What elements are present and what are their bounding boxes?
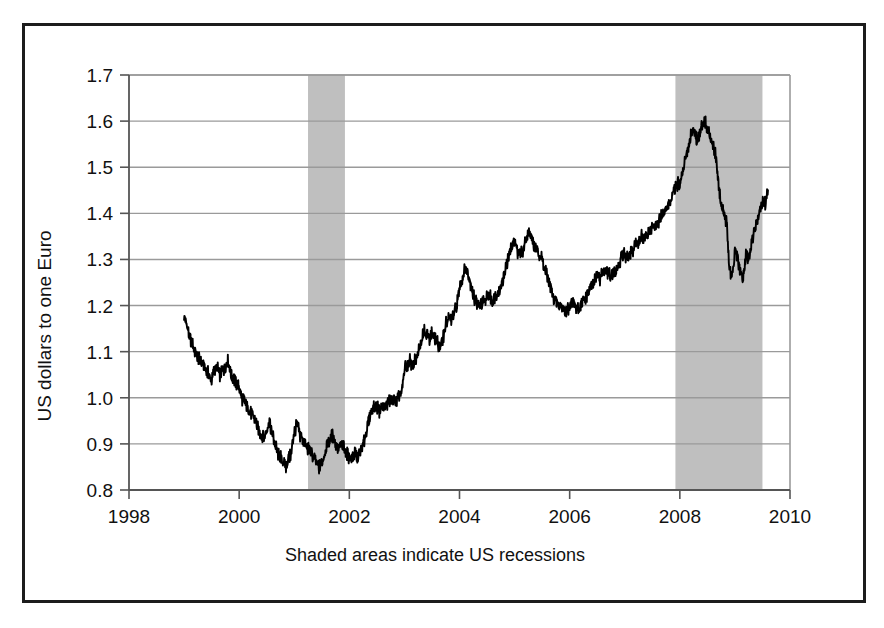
x-tick-label-2004: 2004 (438, 506, 481, 527)
y-tick-label-1.4: 1.4 (87, 203, 114, 224)
x-tick-label-1998: 1998 (108, 506, 150, 527)
x-tick-label-2010: 2010 (769, 506, 811, 527)
exchange-rate-chart: 0.80.91.01.11.21.31.41.51.61.7 199820002… (25, 26, 863, 600)
x-axis-tick-labels: 1998200020022004200620082010 (108, 506, 811, 527)
y-axis-tick-labels: 0.80.91.01.11.21.31.41.51.61.7 (87, 65, 114, 501)
y-tick-label-1.6: 1.6 (87, 111, 113, 132)
y-tick-label-1.3: 1.3 (87, 249, 113, 270)
chart-caption: Shaded areas indicate US recessions (285, 545, 585, 565)
x-tick-label-2000: 2000 (218, 506, 260, 527)
y-axis-ticks (120, 75, 129, 490)
y-tick-label-1.5: 1.5 (87, 157, 113, 178)
figure-container: 0.80.91.01.11.21.31.41.51.61.7 199820002… (0, 0, 884, 628)
y-tick-label-0.9: 0.9 (87, 434, 113, 455)
recession-band-0 (308, 75, 345, 490)
y-tick-label-1.7: 1.7 (87, 65, 113, 86)
x-axis-ticks (129, 490, 790, 499)
x-tick-label-2006: 2006 (549, 506, 591, 527)
y-axis-title: US dollars to one Euro (34, 230, 55, 421)
recession-shaded-regions (308, 75, 762, 490)
y-tick-label-0.8: 0.8 (87, 480, 113, 501)
y-tick-label-1.2: 1.2 (87, 296, 113, 317)
y-tick-label-1.1: 1.1 (87, 342, 113, 363)
x-tick-label-2008: 2008 (659, 506, 701, 527)
x-tick-label-2002: 2002 (328, 506, 370, 527)
recession-band-1 (675, 75, 762, 490)
y-tick-label-1.0: 1.0 (87, 388, 113, 409)
chart-outer-frame: 0.80.91.01.11.21.31.41.51.61.7 199820002… (22, 23, 866, 603)
